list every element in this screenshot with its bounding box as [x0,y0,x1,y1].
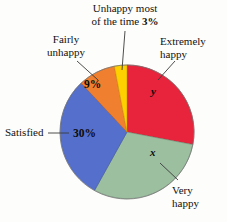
label-unhappy-most-of-the-time: Unhappy most of the time 3% [73,2,177,27]
pie-chart-figure: Unhappy most of the time 3% Fairly unhap… [0,0,227,222]
label-extremely-happy-line1: Extremely [160,35,206,47]
slice-value-fairly-unhappy: 9% [84,78,101,90]
slice-value-very-happy: x [150,146,156,158]
label-unhappy-most-percent: 3% [142,15,159,27]
label-very-happy-line1: Very [172,184,193,196]
slice-value-satisfied: 30% [73,127,96,139]
label-unhappy-most-line2: of the time [92,15,140,27]
leader-line-unhappy-most [122,31,125,70]
label-fairly-unhappy: Fairly unhappy [37,33,95,58]
leader-line-extremely-happy [158,61,175,80]
label-unhappy-most-line1: Unhappy most [93,2,157,14]
label-satisfied: Satisfied [5,126,44,139]
label-fairly-unhappy-line2: unhappy [47,46,85,58]
label-extremely-happy-line2: happy [160,48,187,60]
label-very-happy: Very happy [172,184,224,209]
slice-value-extremely-happy: y [151,85,156,97]
label-very-happy-line2: happy [172,197,199,209]
label-fairly-unhappy-line1: Fairly [53,33,79,45]
label-extremely-happy: Extremely happy [160,35,226,60]
